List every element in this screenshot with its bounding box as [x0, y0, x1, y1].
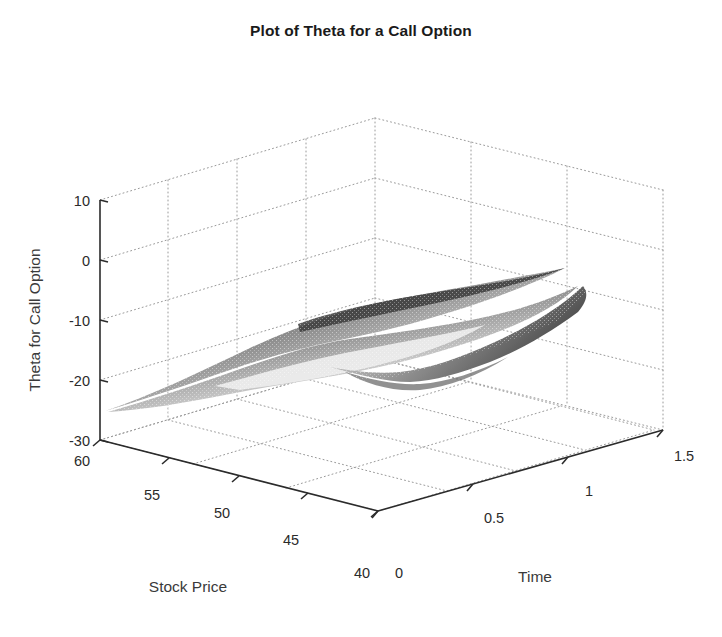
z-axis-ticks: [100, 200, 108, 442]
x-axis: 60 55 50 45 40 Stock Price: [74, 440, 378, 595]
grid-back-right-wall: [375, 118, 663, 430]
theta-surface: [95, 255, 605, 430]
x-tick-label-50: 50: [214, 505, 230, 521]
x-tick-label-55: 55: [144, 487, 160, 503]
z-tick-label-neg10: -10: [69, 313, 90, 329]
z-tick-label-10: 10: [74, 193, 90, 209]
z-axis: 10 0 -10 -20 -30 Theta for Call Option: [26, 193, 108, 449]
y-axis: 0 0.5 1 1.5 Time: [372, 430, 694, 585]
x-tick-label-60: 60: [74, 453, 90, 469]
z-tick-label-neg20: -20: [69, 373, 90, 389]
y-axis-title: Time: [518, 568, 552, 585]
y-tick-label-0: 0: [395, 565, 403, 581]
x-tick-label-40: 40: [354, 565, 370, 581]
x-tick-label-45: 45: [283, 532, 299, 548]
z-tick-label-neg30: -30: [69, 433, 90, 449]
surface-plot-canvas: 10 0 -10 -20 -30 Theta for Call Option 6…: [0, 0, 722, 637]
y-tick-label-1p5: 1.5: [674, 448, 694, 464]
y-tick-label-1: 1: [585, 483, 593, 499]
y-tick-label-0p5: 0.5: [484, 510, 504, 526]
z-axis-title: Theta for Call Option: [26, 248, 43, 391]
z-tick-label-0: 0: [82, 253, 90, 269]
x-axis-title: Stock Price: [149, 578, 227, 595]
matlab-figure-window: Plot of Theta for a Call Option: [0, 0, 722, 637]
